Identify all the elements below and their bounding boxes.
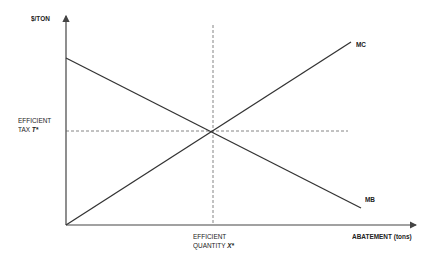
tax-symbol: T* <box>32 126 38 133</box>
mc-curve <box>66 42 351 225</box>
efficient-quantity-label: EFFICIENT QUANTITY X* <box>193 232 234 250</box>
abatement-diagram: $/TON MC MB EFFICIENT TAX T* EFFICIENT Q… <box>0 0 434 260</box>
diagram-canvas <box>0 0 434 260</box>
mb-curve <box>66 58 361 208</box>
y-axis-label: $/TON <box>31 14 50 23</box>
mb-label: MB <box>365 195 375 204</box>
mc-label: MC <box>356 40 366 49</box>
efficient-quantity-line1: EFFICIENT <box>193 232 234 241</box>
x-axis-label: ABATEMENT (tons) <box>352 232 412 241</box>
efficient-tax-line2: TAX T* <box>18 125 51 134</box>
quantity-symbol: X* <box>227 242 234 249</box>
efficient-quantity-line2: QUANTITY X* <box>193 241 234 250</box>
efficient-tax-line1: EFFICIENT <box>18 116 51 125</box>
efficient-tax-label: EFFICIENT TAX T* <box>18 116 51 134</box>
